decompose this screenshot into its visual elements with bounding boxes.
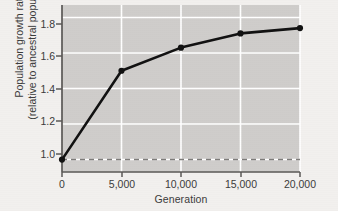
x-axis bbox=[62, 172, 300, 177]
data-point bbox=[178, 45, 184, 51]
y-axis-title: Population growth rate (relative to ance… bbox=[12, 0, 40, 133]
x-tick-label-5000: 5,000 bbox=[92, 178, 152, 190]
figure-panel: 1.8 1.6 1.4 1.2 1.0 0 5,000 10,000 15,00… bbox=[0, 0, 338, 211]
x-tick-label-20000: 20,000 bbox=[270, 178, 330, 190]
data-point bbox=[297, 25, 303, 31]
data-point bbox=[118, 68, 124, 74]
y-axis bbox=[56, 5, 62, 172]
data-point bbox=[59, 156, 65, 162]
y-axis-title-line-1: Population growth rate bbox=[13, 0, 26, 98]
y-tick-label-1-0: 1.0 bbox=[15, 148, 55, 160]
x-axis-title: Generation bbox=[62, 193, 300, 205]
x-tick-label-10000: 10,000 bbox=[151, 178, 211, 190]
x-tick-label-15000: 15,000 bbox=[211, 178, 271, 190]
x-tick-label-0: 0 bbox=[32, 178, 92, 190]
y-axis-title-line-2: (relative to ancestral population) bbox=[26, 0, 39, 120]
data-point bbox=[237, 30, 243, 36]
